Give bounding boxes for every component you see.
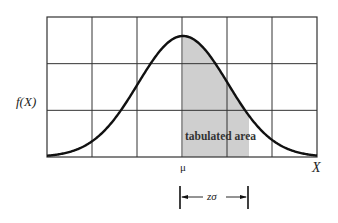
tabulated-area-label: tabulated area bbox=[185, 130, 256, 142]
y-axis-label: f(X) bbox=[16, 94, 36, 110]
grid bbox=[47, 17, 317, 157]
normal-curve-diagram bbox=[0, 0, 338, 223]
mean-label: μ bbox=[180, 161, 186, 173]
interval-label: zσ bbox=[207, 190, 217, 202]
x-axis-label: X bbox=[312, 160, 321, 176]
